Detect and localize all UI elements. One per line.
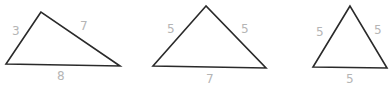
isosceles-side-bottom-label: 7 — [206, 73, 214, 85]
isosceles-triangle — [153, 6, 266, 68]
scalene-side-right-label: 7 — [80, 20, 88, 32]
scalene-side-left-label: 3 — [12, 25, 20, 37]
scalene-side-bottom-label: 8 — [57, 70, 65, 82]
isosceles-side-left-label: 5 — [167, 23, 175, 35]
scalene-triangle — [6, 12, 120, 66]
equilateral-side-bottom-label: 5 — [346, 73, 354, 85]
equilateral-side-right-label: 5 — [374, 24, 382, 36]
isosceles-side-right-label: 5 — [241, 23, 249, 35]
equilateral-side-left-label: 5 — [316, 26, 324, 38]
triangles-canvas — [0, 0, 390, 103]
equilateral-triangle — [313, 6, 387, 68]
